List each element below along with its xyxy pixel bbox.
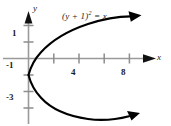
graph-figure: 1 -1 -3 4 8 x y (y + 1)2 = x [0, 0, 171, 126]
y-tick-label-minus-3: -3 [6, 93, 14, 102]
x-tick-label-4: 4 [71, 68, 76, 77]
parabola-upper-arrowhead [129, 11, 142, 21]
x-axis-label: x [157, 53, 161, 62]
equation-rest: = x [92, 11, 107, 21]
y-axis-arrowhead [25, 11, 33, 24]
y-tick-label-minus-1: -1 [6, 61, 14, 70]
x-axis-arrowhead [143, 54, 156, 63]
x-tick-label-8: 8 [121, 68, 126, 77]
y-axis-label: y [33, 4, 37, 13]
equation-annotation: (y + 1)2 = x [62, 12, 107, 21]
parabola-lower-branch [29, 75, 130, 120]
equation-base: (y + 1) [62, 11, 88, 21]
parabola-upper-branch [29, 16, 132, 75]
y-tick-label-1: 1 [12, 29, 17, 38]
